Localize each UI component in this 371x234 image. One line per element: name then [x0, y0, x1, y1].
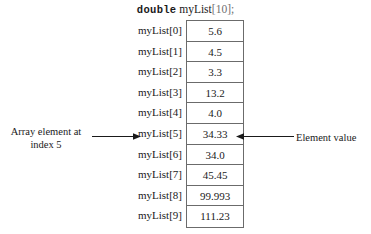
array-index-label: myList[7] — [118, 164, 182, 185]
left-annotation-line-1: Array element at — [2, 126, 90, 139]
array-index-label: myList[9] — [118, 205, 182, 226]
array-index-label: myList[8] — [118, 185, 182, 206]
left-annotation-arrow-icon — [92, 132, 141, 141]
array-cell: 4.0 — [187, 103, 243, 124]
array-index-labels: myList[0] myList[1] myList[2] myList[3] … — [118, 20, 182, 226]
array-cells-box: 5.6 4.5 3.3 13.2 4.0 34.33 34.0 45.45 99… — [186, 20, 244, 228]
array-cell: 3.3 — [187, 62, 243, 83]
array-index-label: myList[2] — [118, 61, 182, 82]
array-index-label: myList[1] — [118, 41, 182, 62]
declaration-brackets: [10]; — [212, 3, 234, 15]
declaration-keyword: double — [137, 4, 177, 16]
array-index-label: myList[4] — [118, 102, 182, 123]
array-cell: 5.6 — [187, 21, 243, 42]
array-index-label: myList[0] — [118, 20, 182, 41]
array-index-label: myList[3] — [118, 82, 182, 103]
array-diagram-figure: double myList[10]; myList[0] myList[1] m… — [0, 0, 371, 234]
array-cell: 111.23 — [187, 206, 243, 227]
array-cell: 45.45 — [187, 165, 243, 186]
array-cell: 4.5 — [187, 42, 243, 63]
array-index-label: myList[6] — [118, 144, 182, 165]
array-cell: 34.0 — [187, 145, 243, 166]
declaration-variable-name: myList — [179, 3, 212, 15]
right-annotation-arrow-icon — [236, 132, 294, 141]
left-annotation-line-2: index 5 — [2, 139, 90, 152]
array-cell: 99.993 — [187, 186, 243, 207]
right-annotation-text: Element value — [296, 131, 356, 144]
array-cell: 34.33 — [187, 124, 243, 145]
left-annotation-text: Array element at index 5 — [2, 126, 90, 151]
array-declaration: double myList[10]; — [0, 2, 371, 17]
array-cell: 13.2 — [187, 83, 243, 104]
